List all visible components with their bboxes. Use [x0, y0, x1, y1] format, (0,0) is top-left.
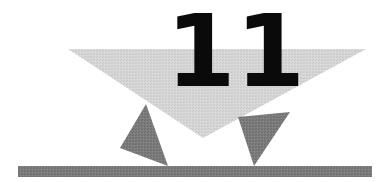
right-small-triangle	[238, 112, 290, 166]
geometric-shapes	[0, 0, 391, 182]
chapter-illustration: 1 1	[0, 0, 391, 182]
left-small-triangle	[120, 104, 168, 166]
ground-bar	[18, 166, 372, 177]
large-inverted-triangle	[68, 49, 366, 138]
